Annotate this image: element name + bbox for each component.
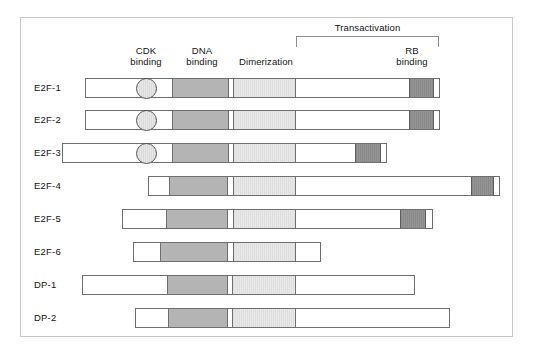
- dimerization-header: Dimerization: [221, 56, 311, 67]
- protein-row: E2F-6: [0, 242, 533, 264]
- protein-row-label: E2F-5: [34, 213, 94, 224]
- cdk-binding-circle: [136, 110, 157, 131]
- segment-dna-binding: [172, 111, 229, 129]
- segment-rb-binding: [409, 111, 434, 129]
- segment-dimerization: [233, 111, 296, 129]
- segment-dna-binding: [172, 144, 229, 162]
- protein-row: E2F-4: [0, 176, 533, 198]
- segment-dimerization: [233, 210, 296, 228]
- transactivation-label: Transactivation: [296, 22, 439, 33]
- segment-rb-binding: [355, 144, 381, 162]
- segment-rb-binding: [409, 79, 434, 97]
- protein-row-label: E2F-6: [34, 246, 94, 257]
- segment-dimerization: [233, 243, 296, 261]
- segment-dna-binding: [166, 210, 228, 228]
- protein-row: E2F-3: [0, 143, 533, 165]
- protein-bar: [62, 143, 387, 163]
- protein-bar: [82, 275, 415, 295]
- protein-row-label: E2F-4: [34, 180, 94, 191]
- protein-row: E2F-5: [0, 209, 533, 231]
- segment-dimerization: [232, 309, 296, 327]
- protein-bar: [133, 242, 321, 262]
- cdk-binding-circle: [136, 78, 157, 99]
- segment-dimerization: [233, 144, 296, 162]
- rb-binding-header: RB binding: [367, 45, 457, 67]
- protein-bar: [122, 209, 433, 229]
- segment-dimerization: [233, 177, 296, 195]
- protein-row-label: DP-2: [34, 312, 94, 323]
- protein-row: E2F-2: [0, 110, 533, 132]
- protein-row: DP-1: [0, 275, 533, 297]
- protein-bar: [148, 176, 500, 196]
- protein-bar: [85, 78, 440, 98]
- cdk-binding-circle: [136, 143, 157, 164]
- segment-dna-binding: [172, 79, 229, 97]
- segment-dimerization: [232, 276, 296, 294]
- segment-dimerization: [233, 79, 296, 97]
- protein-row: DP-2: [0, 308, 533, 330]
- segment-rb-binding: [400, 210, 426, 228]
- segment-rb-binding: [471, 177, 494, 195]
- protein-row: E2F-1: [0, 78, 533, 100]
- segment-dna-binding: [167, 276, 228, 294]
- protein-bar: [85, 110, 440, 130]
- segment-dna-binding: [169, 177, 228, 195]
- segment-dna-binding: [160, 243, 228, 261]
- protein-bar: [135, 308, 450, 328]
- segment-dna-binding: [168, 309, 228, 327]
